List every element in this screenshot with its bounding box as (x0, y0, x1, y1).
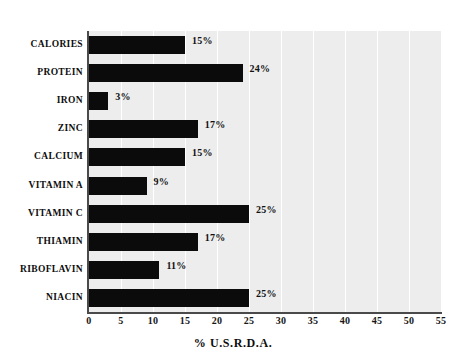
category-row: CALORIES (0, 31, 83, 59)
bar (89, 233, 198, 251)
x-tick-label: 5 (118, 315, 123, 326)
bar-value-label: 17% (205, 119, 226, 130)
category-axis-labels: CALORIESPROTEINIRONZINCCALCIUMVITAMIN AV… (0, 31, 83, 312)
bar-row: 11% (89, 256, 441, 284)
bar-chart: CALORIESPROTEINIRONZINCCALCIUMVITAMIN AV… (0, 0, 466, 359)
category-row: CALCIUM (0, 143, 83, 171)
bar (89, 177, 147, 195)
bar (89, 92, 108, 110)
category-row: NIACIN (0, 284, 83, 312)
bar-row: 17% (89, 228, 441, 256)
bar (89, 64, 243, 82)
bar-value-label: 15% (192, 147, 213, 158)
x-tick-label: 55 (436, 315, 447, 326)
bar-value-label: 25% (256, 204, 277, 215)
category-label: NIACIN (1, 292, 83, 302)
bar-row: 24% (89, 59, 441, 87)
x-axis-title: % U.S.R.D.A. (0, 336, 466, 351)
bar (89, 289, 249, 307)
x-tick-label: 40 (340, 315, 351, 326)
category-row: THIAMIN (0, 228, 83, 256)
category-label: RIBOFLAVIN (1, 264, 83, 274)
bar-value-label: 15% (192, 35, 213, 46)
category-row: VITAMIN C (0, 200, 83, 228)
y-axis-line (87, 31, 89, 314)
category-row: ZINC (0, 115, 83, 143)
bar-row: 15% (89, 31, 441, 59)
bar-row: 3% (89, 87, 441, 115)
category-label: ZINC (1, 123, 83, 133)
category-label: CALORIES (1, 39, 83, 49)
x-tick-label: 10 (148, 315, 159, 326)
bar-row: 25% (89, 284, 441, 312)
category-label: VITAMIN C (1, 208, 83, 218)
bar (89, 261, 159, 279)
category-label: THIAMIN (1, 236, 83, 246)
x-axis-line (87, 312, 442, 314)
bar-value-label: 17% (205, 232, 226, 243)
x-tick-label: 45 (372, 315, 383, 326)
x-tick-label: 50 (404, 315, 415, 326)
x-tick-label: 20 (212, 315, 223, 326)
plot-area: 15%24%3%17%15%9%25%17%11%25% (89, 31, 441, 312)
category-row: PROTEIN (0, 59, 83, 87)
bar-value-label: 24% (250, 63, 271, 74)
bar-row: 17% (89, 115, 441, 143)
bar (89, 120, 198, 138)
category-row: IRON (0, 87, 83, 115)
bar-row: 9% (89, 172, 441, 200)
bar-row: 15% (89, 143, 441, 171)
x-tick-label: 35 (308, 315, 319, 326)
bar (89, 205, 249, 223)
x-tick-label: 25 (244, 315, 255, 326)
bar-value-label: 3% (115, 91, 130, 102)
category-label: PROTEIN (1, 67, 83, 77)
category-label: VITAMIN A (1, 180, 83, 190)
gridline (441, 31, 442, 312)
x-axis-ticks: 0510152025303540455055 (89, 315, 441, 331)
bar-row: 25% (89, 200, 441, 228)
x-tick-label: 0 (86, 315, 91, 326)
x-tick-label: 15 (180, 315, 191, 326)
category-row: VITAMIN A (0, 172, 83, 200)
bar-value-label: 25% (256, 288, 277, 299)
x-tick-label: 30 (276, 315, 287, 326)
category-label: CALCIUM (1, 151, 83, 161)
bar-value-label: 11% (166, 260, 186, 271)
bar (89, 148, 185, 166)
category-label: IRON (1, 95, 83, 105)
bar (89, 36, 185, 54)
bar-value-label: 9% (154, 176, 169, 187)
category-row: RIBOFLAVIN (0, 256, 83, 284)
